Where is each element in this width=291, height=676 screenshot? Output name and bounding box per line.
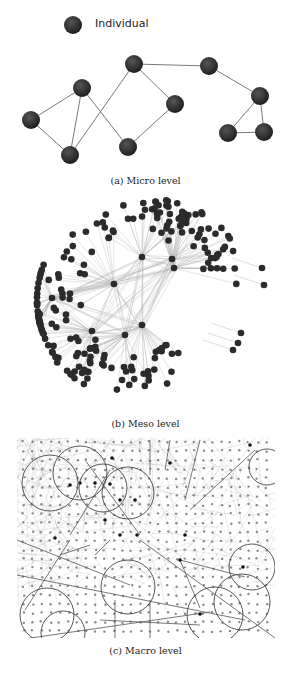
agent-dot <box>221 468 223 470</box>
agent-dot <box>166 469 168 471</box>
agent-dot <box>157 459 159 461</box>
agent-dot <box>230 477 232 479</box>
agent-dot <box>58 602 60 604</box>
agent-dot <box>221 504 223 506</box>
agent-dot <box>140 630 142 632</box>
agent-dot <box>239 568 241 570</box>
agent-dot <box>86 449 88 451</box>
agent-dot <box>147 504 149 506</box>
agent-dot <box>202 604 204 606</box>
agent-dot <box>104 576 106 578</box>
agent-dot <box>94 521 96 523</box>
agent-dot <box>59 593 61 595</box>
macro-leader-node <box>133 498 137 502</box>
agent-dot <box>77 549 79 551</box>
agent-dot <box>50 558 52 560</box>
agent-dot <box>247 531 249 533</box>
macro-content <box>0 390 291 655</box>
agent-dot <box>40 441 42 443</box>
agent-dot <box>59 566 61 568</box>
agent-dot <box>211 468 213 470</box>
agent-dot <box>49 549 51 551</box>
agent-dot <box>148 593 150 595</box>
agent-dot <box>194 522 196 524</box>
agent-dot <box>40 512 42 514</box>
agent-dot <box>230 539 232 541</box>
agent-dot <box>238 440 240 442</box>
agent-dot <box>67 523 69 525</box>
agent-dot <box>31 477 33 479</box>
agent-dot <box>157 584 159 586</box>
agent-dot <box>23 486 25 488</box>
agent-dot <box>148 611 150 613</box>
agent-dot <box>266 504 268 506</box>
agent-dot <box>75 468 77 470</box>
agent-dot <box>58 548 60 550</box>
agent-dot <box>247 602 249 604</box>
agent-dot <box>77 459 79 461</box>
agent-dot <box>31 458 33 460</box>
agent-dot <box>139 568 141 570</box>
agent-dot <box>113 476 115 478</box>
agent-dot <box>40 620 42 622</box>
agent-dot <box>239 495 241 497</box>
agent-dot <box>139 441 141 443</box>
agent-dot <box>32 467 34 469</box>
agent-dot <box>266 568 268 570</box>
agent-dot <box>193 585 195 587</box>
agent-dot <box>266 621 268 623</box>
agent-dot <box>32 531 34 533</box>
macro-link <box>95 540 110 555</box>
agent-dot <box>39 477 41 479</box>
agent-dot <box>94 486 96 488</box>
agent-dot <box>40 503 42 505</box>
agent-dot <box>221 566 223 568</box>
agent-dot <box>239 548 241 550</box>
agent-dot <box>158 594 160 596</box>
agent-dot <box>221 558 223 560</box>
agent-dot <box>229 449 231 451</box>
agent-dot <box>103 450 105 452</box>
agent-dot <box>255 611 257 613</box>
agent-dot <box>68 450 70 452</box>
agent-dot <box>256 531 258 533</box>
agent-dot <box>238 521 240 523</box>
agent-dot <box>113 557 115 559</box>
agent-dot <box>59 558 61 560</box>
agent-dot <box>50 577 52 579</box>
agent-dot <box>120 477 122 479</box>
agent-dot <box>148 575 150 577</box>
agent-dot <box>31 566 33 568</box>
agent-dot <box>247 503 249 505</box>
agent-dot <box>184 613 186 615</box>
agent-dot <box>220 585 222 587</box>
agent-dot <box>112 522 114 524</box>
influence-radius <box>53 446 107 500</box>
agent-dot <box>85 458 87 460</box>
agent-dot <box>167 567 169 569</box>
agent-dot <box>40 450 42 452</box>
macro-link <box>190 450 255 510</box>
agent-dot <box>167 557 169 559</box>
agent-dot <box>131 594 133 596</box>
agent-dot <box>166 513 168 515</box>
agent-dot <box>185 523 187 525</box>
agent-dot <box>266 530 268 532</box>
agent-dot <box>157 486 159 488</box>
agent-dot <box>94 604 96 606</box>
agent-dot <box>103 530 105 532</box>
agent-dot <box>68 468 70 470</box>
agent-dot <box>67 566 69 568</box>
macro-leader-node <box>103 518 107 522</box>
agent-dot <box>31 629 33 631</box>
agent-dot <box>148 585 150 587</box>
agent-dot <box>193 575 195 577</box>
agent-dot <box>202 505 204 507</box>
agent-dot <box>248 620 250 622</box>
agent-dot <box>86 577 88 579</box>
agent-dot <box>85 539 87 541</box>
agent-dot <box>112 486 114 488</box>
agent-dot <box>120 566 122 568</box>
agent-dot <box>86 512 88 514</box>
agent-dot <box>138 503 140 505</box>
